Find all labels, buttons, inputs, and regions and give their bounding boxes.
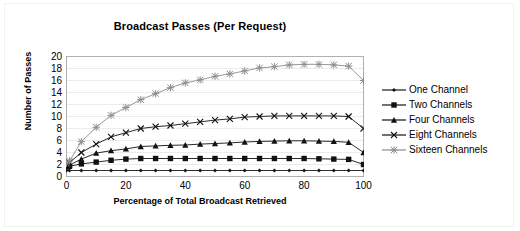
data-point-square bbox=[197, 156, 202, 161]
data-point-asterisk bbox=[330, 61, 337, 68]
chart-legend: One ChannelTwo ChannelsFour ChannelsEigh… bbox=[381, 82, 517, 157]
data-point-diamond bbox=[347, 168, 351, 172]
data-point-diamond bbox=[183, 168, 187, 172]
data-point-triangle bbox=[78, 156, 84, 162]
data-point-asterisk bbox=[167, 84, 174, 91]
data-point-asterisk bbox=[196, 76, 203, 83]
data-point-square bbox=[346, 157, 351, 162]
data-point-diamond bbox=[213, 168, 217, 172]
y-tick-label: 14 bbox=[40, 88, 62, 98]
y-tick-label: 16 bbox=[40, 76, 62, 86]
data-point-asterisk bbox=[360, 77, 364, 84]
data-point-asterisk bbox=[271, 63, 278, 70]
x-tick-label: 20 bbox=[106, 181, 146, 191]
data-point-cross bbox=[93, 141, 99, 147]
data-point-asterisk bbox=[390, 146, 397, 153]
data-point-square bbox=[153, 156, 158, 161]
data-point-diamond bbox=[109, 168, 113, 172]
y-tick-label: 18 bbox=[40, 64, 62, 74]
data-point-asterisk bbox=[107, 112, 114, 119]
plot-area bbox=[66, 56, 364, 177]
data-point-diamond bbox=[198, 168, 202, 172]
data-point-square bbox=[79, 161, 84, 166]
chart-title: Broadcast Passes (Per Request) bbox=[0, 20, 400, 32]
data-point-square bbox=[316, 156, 321, 161]
data-point-asterisk bbox=[66, 157, 73, 164]
legend-label: Two Channels bbox=[407, 99, 472, 110]
data-point-square bbox=[108, 158, 113, 163]
data-point-asterisk bbox=[345, 62, 352, 69]
data-point-square bbox=[301, 156, 306, 161]
legend-item-one-channel[interactable]: One Channel bbox=[381, 82, 517, 97]
data-point-diamond bbox=[287, 168, 291, 172]
y-tick-label: 12 bbox=[40, 100, 62, 110]
data-point-square bbox=[242, 156, 247, 161]
y-axis-tick-labels: 02468101214161820 bbox=[38, 56, 62, 177]
data-point-asterisk bbox=[93, 124, 100, 131]
legend-item-two-channels[interactable]: Two Channels bbox=[381, 97, 517, 112]
chart-figure: Broadcast Passes (Per Request) Number of… bbox=[0, 0, 520, 231]
y-tick-label: 6 bbox=[40, 136, 62, 146]
legend-marker-cross-icon bbox=[381, 128, 407, 142]
data-point-square bbox=[287, 156, 292, 161]
data-point-square bbox=[272, 156, 277, 161]
data-point-diamond bbox=[243, 168, 247, 172]
data-point-square bbox=[123, 156, 128, 161]
legend-label: Eight Channels bbox=[407, 129, 477, 140]
y-tick-label: 2 bbox=[40, 160, 62, 170]
data-point-square bbox=[361, 162, 364, 167]
data-point-asterisk bbox=[256, 64, 263, 71]
data-point-asterisk bbox=[137, 96, 144, 103]
y-tick-label: 10 bbox=[40, 112, 62, 122]
x-tick-label: 0 bbox=[47, 181, 87, 191]
data-point-asterisk bbox=[241, 67, 248, 74]
data-point-diamond bbox=[392, 87, 396, 91]
data-point-diamond bbox=[154, 168, 158, 172]
x-tick-label: 40 bbox=[165, 181, 205, 191]
y-tick-label: 8 bbox=[40, 124, 62, 134]
data-point-square bbox=[168, 156, 173, 161]
legend-marker-triangle-icon bbox=[381, 113, 407, 127]
data-point-asterisk bbox=[152, 90, 159, 97]
data-point-square bbox=[391, 102, 396, 107]
y-tick-label: 20 bbox=[40, 52, 62, 62]
legend-item-sixteen-channels[interactable]: Sixteen Channels bbox=[381, 142, 517, 157]
data-point-square bbox=[212, 156, 217, 161]
data-point-asterisk bbox=[211, 73, 218, 80]
data-point-asterisk bbox=[286, 61, 293, 68]
x-axis-label: Percentage of Total Broadcast Retrieved bbox=[30, 196, 370, 206]
data-point-diamond bbox=[168, 168, 172, 172]
legend-label: One Channel bbox=[407, 84, 468, 95]
y-tick-label: 0 bbox=[40, 172, 62, 182]
data-point-square bbox=[331, 156, 336, 161]
legend-label: Sixteen Channels bbox=[407, 144, 487, 155]
y-axis-label: Number of Passes bbox=[23, 36, 33, 146]
data-point-square bbox=[94, 159, 99, 164]
data-point-diamond bbox=[94, 168, 98, 172]
data-point-asterisk bbox=[122, 104, 129, 111]
data-point-asterisk bbox=[315, 61, 322, 68]
x-tick-label: 80 bbox=[284, 181, 324, 191]
data-point-asterisk bbox=[182, 79, 189, 86]
series-one-channel bbox=[66, 168, 364, 172]
data-point-asterisk bbox=[300, 61, 307, 68]
data-point-diamond bbox=[272, 168, 276, 172]
data-point-diamond bbox=[228, 168, 232, 172]
data-point-diamond bbox=[317, 168, 321, 172]
x-tick-label: 60 bbox=[225, 181, 265, 191]
legend-item-four-channels[interactable]: Four Channels bbox=[381, 112, 517, 127]
data-point-diamond bbox=[124, 168, 128, 172]
series-two-channels bbox=[66, 156, 364, 170]
legend-marker-asterisk-icon bbox=[381, 143, 407, 157]
legend-marker-square-icon bbox=[381, 98, 407, 112]
data-point-diamond bbox=[139, 168, 143, 172]
legend-item-eight-channels[interactable]: Eight Channels bbox=[381, 127, 517, 142]
data-point-square bbox=[257, 156, 262, 161]
data-point-diamond bbox=[361, 168, 364, 172]
data-point-square bbox=[227, 156, 232, 161]
data-point-square bbox=[183, 156, 188, 161]
data-point-diamond bbox=[257, 168, 261, 172]
data-point-cross bbox=[108, 134, 114, 140]
data-point-diamond bbox=[302, 168, 306, 172]
legend-label: Four Channels bbox=[407, 114, 475, 125]
